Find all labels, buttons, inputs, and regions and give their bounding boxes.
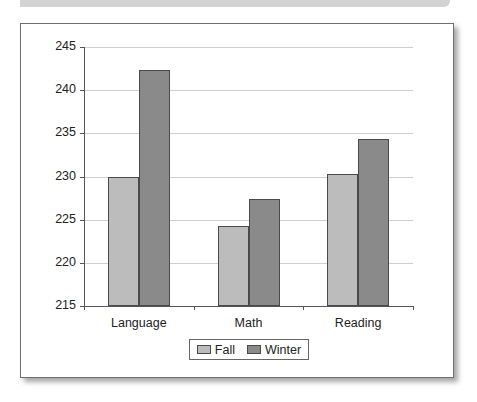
x-category-label: Math [194,316,304,330]
y-tick-label: 225 [40,212,76,226]
fall-swatch-icon [197,345,211,354]
bar-fall-reading [327,174,358,306]
y-tick-label: 230 [40,169,76,183]
y-tick-label: 245 [40,39,76,53]
bar-fall-math [218,226,249,306]
y-tick-label: 235 [40,125,76,139]
gridline [84,47,413,48]
gridline [84,133,413,134]
legend: Fall Winter [189,339,309,360]
caption-strip [20,0,450,7]
y-axis [84,47,85,306]
x-tick [413,306,414,310]
x-category-label: Reading [303,316,413,330]
winter-swatch-icon [247,345,261,354]
y-tick-label: 215 [40,298,76,312]
x-category-label: Language [84,316,194,330]
legend-item-winter: Winter [247,343,301,357]
legend-item-fall: Fall [197,343,235,357]
y-tick-label: 240 [40,82,76,96]
bar-winter-language [139,70,170,306]
legend-label-winter: Winter [265,343,301,357]
y-tick-label: 220 [40,255,76,269]
bar-winter-math [249,199,280,306]
legend-label-fall: Fall [215,343,235,357]
x-axis [84,306,413,307]
bar-fall-language [108,177,139,307]
gridline [84,90,413,91]
bar-winter-reading [358,139,389,306]
